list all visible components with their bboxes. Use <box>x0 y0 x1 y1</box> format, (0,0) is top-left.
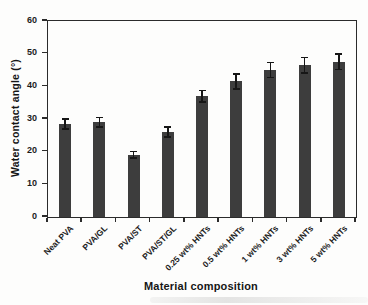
error-bar-cap <box>267 77 274 79</box>
y-axis-tick <box>42 85 47 87</box>
bar <box>299 65 311 217</box>
x-axis-tick <box>149 218 151 222</box>
bar <box>59 124 71 217</box>
error-bar <box>270 62 272 77</box>
error-bar-cap <box>301 57 308 59</box>
x-category-label: PVA/ST <box>116 224 144 252</box>
x-axis-tick <box>115 218 117 222</box>
error-bar-cap <box>233 73 240 75</box>
x-axis-tick <box>217 218 219 222</box>
x-category-label: PVA/GL <box>81 224 109 252</box>
bar-chart-figure: Water contact angle (°) Material composi… <box>0 0 368 305</box>
error-bar-cap <box>199 101 206 103</box>
error-bar-cap <box>267 62 274 64</box>
y-tick-label: 60 <box>17 16 37 25</box>
x-axis-title: Material composition <box>47 280 355 292</box>
error-bar <box>201 90 203 102</box>
x-axis-tick <box>252 218 254 222</box>
error-bar-cap <box>164 136 171 138</box>
error-bar-cap <box>96 126 103 128</box>
y-tick-label: 20 <box>17 146 37 155</box>
error-bar-cap <box>199 90 206 92</box>
error-bar-cap <box>96 117 103 119</box>
bar <box>128 155 140 217</box>
error-bar <box>235 74 237 89</box>
x-axis-tick <box>80 218 82 222</box>
error-bar <box>304 57 306 73</box>
y-axis-tick <box>42 19 47 21</box>
y-tick-label: 10 <box>17 179 37 188</box>
y-tick-label: 0 <box>17 212 37 221</box>
error-bar <box>338 54 340 70</box>
bar <box>196 96 208 217</box>
y-tick-label: 30 <box>17 114 37 123</box>
error-bar-cap <box>164 126 171 128</box>
x-axis-tick <box>286 218 288 222</box>
plot-area <box>47 20 357 218</box>
y-axis-tick <box>42 150 47 152</box>
error-bar-cap <box>301 72 308 74</box>
bar <box>162 132 174 217</box>
bar <box>230 81 242 217</box>
error-bar-cap <box>130 157 137 159</box>
x-axis-tick <box>354 218 356 222</box>
x-axis-tick <box>320 218 322 222</box>
bar <box>333 62 345 217</box>
y-tick-label: 50 <box>17 48 37 57</box>
error-bar-cap <box>335 69 342 71</box>
x-axis-tick <box>183 218 185 222</box>
error-bar-cap <box>62 118 69 120</box>
y-tick-label: 40 <box>17 81 37 90</box>
bar <box>93 122 105 217</box>
x-axis-tick <box>46 218 48 222</box>
error-bar-cap <box>130 151 137 153</box>
error-bar-cap <box>233 88 240 90</box>
scan-artifact <box>150 297 368 303</box>
y-axis-tick <box>42 183 47 185</box>
x-category-label: Neat PVA <box>42 224 75 257</box>
bar <box>264 70 276 217</box>
y-axis-tick <box>42 117 47 119</box>
y-axis-tick <box>42 52 47 54</box>
error-bar-cap <box>62 128 69 130</box>
error-bar-cap <box>335 53 342 55</box>
